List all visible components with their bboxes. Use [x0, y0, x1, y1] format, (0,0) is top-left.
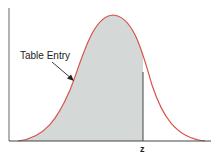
annotation-arrow	[52, 62, 72, 79]
table-entry-label: Table Entry	[20, 50, 70, 61]
shaded-area	[18, 15, 205, 141]
z-label: z	[140, 144, 145, 154]
normal-distribution-diagram: Table Entry z	[0, 0, 218, 154]
